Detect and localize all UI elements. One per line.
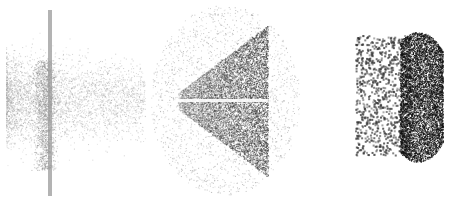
figure-canvas-wrapper xyxy=(0,0,456,202)
particle-clouds-image xyxy=(0,0,456,202)
